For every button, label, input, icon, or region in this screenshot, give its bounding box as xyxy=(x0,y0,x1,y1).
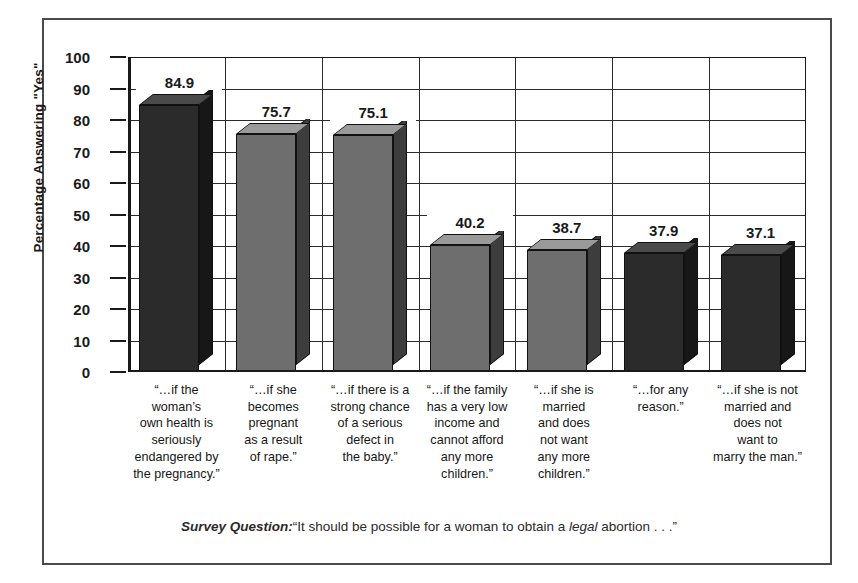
y-tick-label: 90 xyxy=(56,81,90,96)
category-label-line: as a result xyxy=(225,432,322,449)
y-tick-mark xyxy=(110,245,126,247)
bar-value-label: 75.7 xyxy=(233,104,319,120)
category-label-line: any more xyxy=(515,449,612,466)
bar-value-label: 84.9 xyxy=(136,75,222,91)
y-tick-label: 60 xyxy=(56,176,90,191)
category-label-line: marry the man.” xyxy=(709,449,806,466)
caption-label: Survey Question: xyxy=(181,519,293,534)
y-tick-mark xyxy=(110,214,126,216)
category-label-line: cannot afford xyxy=(419,432,516,449)
category-label-line: “…if the xyxy=(128,382,225,399)
category-label: “…if she is notmarried anddoes notwant t… xyxy=(709,382,806,466)
y-axis-tick-marks xyxy=(110,0,128,583)
y-tick-label: 30 xyxy=(56,270,90,285)
category-label-line: “…if she is not xyxy=(709,382,806,399)
category-label-line: “…if she is xyxy=(515,382,612,399)
y-tick-label: 50 xyxy=(56,207,90,222)
y-tick-label: 100 xyxy=(56,50,90,65)
y-tick-label: 70 xyxy=(56,144,90,159)
category-label-line: defect in xyxy=(322,432,419,449)
caption-text-after: abortion . . .” xyxy=(597,519,677,534)
caption-emphasis: legal xyxy=(569,519,598,534)
category-label-line: seriously xyxy=(128,432,225,449)
chart-figure: Percentage Answering "Yes" 1009080706050… xyxy=(0,0,858,583)
y-tick-label: 10 xyxy=(56,333,90,348)
chart-caption: Survey Question:“It should be possible f… xyxy=(0,519,858,534)
y-tick-mark xyxy=(110,371,126,373)
category-label-line: married xyxy=(515,399,612,416)
y-tick-mark xyxy=(110,308,126,310)
category-label-line: the baby.” xyxy=(322,449,419,466)
bar-value-label: 38.7 xyxy=(524,220,610,236)
y-tick-mark xyxy=(110,88,126,90)
category-label-line: does not xyxy=(709,415,806,432)
category-label-line: “…if there is a xyxy=(322,382,419,399)
y-tick-label: 0 xyxy=(56,365,90,380)
y-tick-label: 40 xyxy=(56,239,90,254)
bar-value-label: 75.1 xyxy=(330,105,416,121)
category-label-line: children.” xyxy=(419,466,516,483)
category-label-line: and does xyxy=(515,415,612,432)
y-tick-label: 80 xyxy=(56,113,90,128)
category-label: “…if shebecomespregnantas a resultof rap… xyxy=(225,382,322,466)
y-tick-mark xyxy=(110,182,126,184)
category-label-line: “…if the family xyxy=(419,382,516,399)
category-label-line: the pregnancy.” xyxy=(128,466,225,483)
category-label-line: of rape.” xyxy=(225,449,322,466)
category-label-line: not want xyxy=(515,432,612,449)
y-tick-mark xyxy=(110,277,126,279)
category-label: “…if she ismarriedand doesnot wantany mo… xyxy=(515,382,612,482)
category-label-line: pregnant xyxy=(225,415,322,432)
category-label-line: income and xyxy=(419,415,516,432)
category-label-line: has a very low xyxy=(419,399,516,416)
y-tick-mark xyxy=(110,119,126,121)
bar-value-label: 37.1 xyxy=(718,225,804,241)
bar-value-label: 37.9 xyxy=(621,223,707,239)
y-axis-title: Percentage Answering "Yes" xyxy=(31,58,46,258)
y-tick-mark xyxy=(110,56,126,58)
y-tick-mark xyxy=(110,340,126,342)
category-label: “…if thewoman’sown health isseriouslyend… xyxy=(128,382,225,482)
category-label-line: becomes xyxy=(225,399,322,416)
bar-value-label: 40.2 xyxy=(427,215,513,231)
category-label-line: strong chance xyxy=(322,399,419,416)
category-label-line: of a serious xyxy=(322,415,419,432)
category-label: “…if there is astrong chanceof a serious… xyxy=(322,382,419,466)
category-label: “…for anyreason.” xyxy=(612,382,709,415)
category-label-line: woman’s xyxy=(128,399,225,416)
category-label: “…if the familyhas a very lowincome andc… xyxy=(419,382,516,482)
category-label-line: “…if she xyxy=(225,382,322,399)
y-tick-mark xyxy=(110,151,126,153)
y-axis-tick-labels: 1009080706050403020100 xyxy=(52,0,90,583)
category-label-line: “…for any xyxy=(612,382,709,399)
category-label-line: any more xyxy=(419,449,516,466)
category-label-line: want to xyxy=(709,432,806,449)
category-label-line: reason.” xyxy=(612,399,709,416)
category-label-line: endangered by xyxy=(128,449,225,466)
category-label-line: own health is xyxy=(128,415,225,432)
y-tick-label: 20 xyxy=(56,302,90,317)
category-label-line: children.” xyxy=(515,466,612,483)
category-label-line: married and xyxy=(709,399,806,416)
caption-text-before: “It should be possible for a woman to ob… xyxy=(293,519,569,534)
